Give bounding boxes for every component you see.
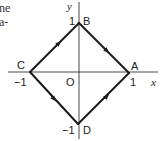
direction-arrows xyxy=(50,43,107,100)
x-tick-neg1: −1 xyxy=(14,76,27,88)
diamond-path xyxy=(30,23,129,124)
square-path-diagram: y x O B A C D 1 −1 −1 1 xyxy=(0,0,161,141)
x-axis-label: x xyxy=(150,76,156,88)
edge-d-a xyxy=(78,73,129,124)
vertex-label-a: A xyxy=(131,60,139,72)
vertex-label-d: D xyxy=(83,124,91,136)
x-tick-1: 1 xyxy=(130,76,136,88)
y-tick-1: 1 xyxy=(69,15,75,27)
y-axis-label: y xyxy=(66,0,72,12)
vertex-label-c: C xyxy=(17,59,25,71)
y-tick-neg1: −1 xyxy=(62,124,75,136)
edge-c-b xyxy=(30,23,79,72)
vertex-label-b: B xyxy=(83,15,90,27)
arrow-icon-b-to-a xyxy=(102,46,107,51)
origin-label: O xyxy=(66,76,75,88)
